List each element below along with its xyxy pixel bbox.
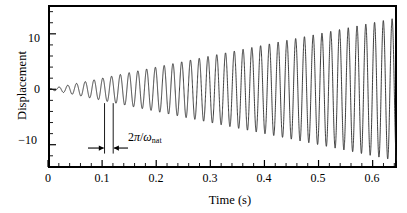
curve-path — [48, 19, 397, 161]
x-axis-title: Time (s) — [130, 194, 330, 207]
displacement-curve — [48, 5, 397, 168]
period-annotation-subscript: nat — [152, 136, 162, 145]
xtick-label-0-2: 0.2 — [136, 172, 176, 184]
xtick-label-0: 0 — [28, 172, 68, 184]
period-annotation-omega: ω — [143, 130, 151, 144]
xtick-label-0-6: 0.6 — [352, 172, 392, 184]
resonance-chart-figure: 10 0 −10 0 0.1 0.2 0.3 0.4 0.5 0.6 Time … — [0, 0, 407, 213]
xtick-label-0-3: 0.3 — [190, 172, 230, 184]
xtick-label-0-4: 0.4 — [244, 172, 284, 184]
xtick-label-0-1: 0.1 — [82, 172, 122, 184]
period-annotation-label: 2π/ωnat — [128, 131, 162, 145]
y-axis-title: Displacement — [16, 31, 29, 141]
xtick-label-0-5: 0.5 — [298, 172, 338, 184]
